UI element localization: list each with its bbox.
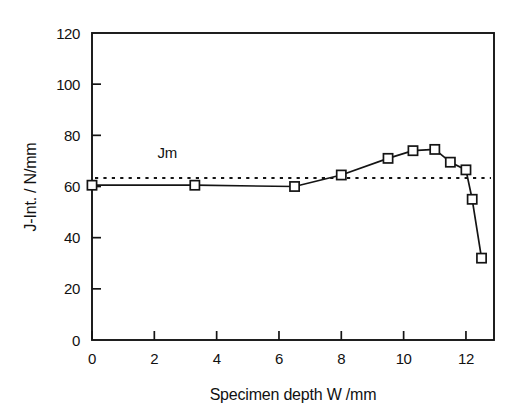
x-axis-ticks	[92, 331, 466, 340]
jm-annotation-label: Jm	[157, 144, 176, 161]
y-tick-label: 0	[72, 332, 80, 349]
data-point-marker	[290, 182, 299, 191]
data-point-marker	[430, 145, 439, 154]
data-point-marker	[87, 181, 96, 190]
y-tick-label: 120	[56, 25, 80, 42]
x-tick-label: 6	[275, 350, 283, 367]
x-tick-label: 8	[337, 350, 345, 367]
x-tick-label: 4	[213, 350, 221, 367]
data-point-marker	[190, 181, 199, 190]
data-point-marker	[337, 170, 346, 179]
x-axis-tick-labels: 024681012	[88, 350, 474, 367]
data-series-markers	[87, 145, 486, 263]
x-tick-label: 0	[88, 350, 96, 367]
chart-figure: 020406080100120 024681012 Jm Specimen de…	[0, 0, 530, 414]
y-tick-label: 20	[64, 280, 80, 297]
data-point-marker	[446, 158, 455, 167]
y-tick-label: 100	[56, 76, 80, 93]
chart-canvas: 020406080100120 024681012 Jm Specimen de…	[0, 0, 530, 414]
y-axis-tick-labels: 020406080100120	[56, 25, 80, 349]
y-tick-label: 80	[64, 127, 80, 144]
x-tick-label: 2	[150, 350, 158, 367]
x-tick-label: 10	[396, 350, 412, 367]
y-axis-title: J-Int. / N/mm	[22, 143, 39, 232]
data-point-marker	[408, 146, 417, 155]
x-axis-title: Specimen depth W /mm	[210, 386, 377, 403]
data-point-marker	[477, 254, 486, 263]
data-series-line	[92, 149, 482, 258]
x-tick-label: 12	[458, 350, 474, 367]
data-point-marker	[468, 195, 477, 204]
data-point-marker	[383, 154, 392, 163]
y-tick-label: 40	[64, 229, 80, 246]
data-point-marker	[461, 165, 470, 174]
y-tick-label: 60	[64, 178, 80, 195]
